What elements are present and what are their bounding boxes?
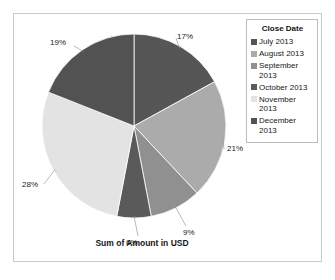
legend-item[interactable]: November 2013 bbox=[251, 95, 314, 114]
legend-swatch-icon bbox=[251, 63, 257, 69]
leader-line bbox=[134, 216, 138, 236]
legend-item[interactable]: September 2013 bbox=[251, 61, 314, 80]
pie-svg bbox=[14, 14, 254, 263]
pie-slices bbox=[42, 34, 226, 218]
pie-chart-report: 17% 21% 9% 6% 28% 19% Sum of Amount in U… bbox=[0, 0, 335, 280]
legend-item-label: December 2013 bbox=[259, 116, 314, 135]
legend-item[interactable]: December 2013 bbox=[251, 116, 314, 135]
legend-swatch-icon bbox=[251, 84, 257, 90]
legend-item[interactable]: October 2013 bbox=[251, 83, 314, 93]
slice-label-august: 21% bbox=[227, 144, 243, 153]
legend-swatch-icon bbox=[251, 118, 257, 124]
slice-label-december: 19% bbox=[50, 38, 66, 47]
slice-label-september: 9% bbox=[183, 228, 195, 237]
slice-label-july: 17% bbox=[177, 32, 193, 41]
legend-item-label: November 2013 bbox=[259, 95, 314, 114]
legend-item[interactable]: August 2013 bbox=[251, 49, 314, 59]
legend-item-label: September 2013 bbox=[259, 61, 314, 80]
leader-line bbox=[44, 169, 55, 184]
pie-plot-area[interactable]: 17% 21% 9% 6% 28% 19% bbox=[14, 14, 254, 263]
legend-items: July 2013August 2013September 2013Octobe… bbox=[251, 37, 314, 135]
legend-item-label: August 2013 bbox=[259, 49, 304, 59]
chart-frame: 17% 21% 9% 6% 28% 19% Sum of Amount in U… bbox=[13, 13, 322, 262]
legend-swatch-icon bbox=[251, 51, 257, 57]
legend-swatch-icon bbox=[251, 39, 257, 45]
chart-title: Sum of Amount in USD bbox=[42, 238, 242, 248]
leader-line bbox=[175, 206, 186, 226]
legend[interactable]: Close Date July 2013August 2013September… bbox=[246, 19, 318, 143]
legend-swatch-icon bbox=[251, 96, 257, 102]
slice-label-november: 28% bbox=[22, 180, 38, 189]
legend-item-label: July 2013 bbox=[259, 37, 293, 47]
legend-title: Close Date bbox=[251, 24, 314, 33]
legend-item[interactable]: July 2013 bbox=[251, 37, 314, 47]
leader-line bbox=[74, 46, 83, 52]
legend-item-label: October 2013 bbox=[259, 83, 307, 93]
